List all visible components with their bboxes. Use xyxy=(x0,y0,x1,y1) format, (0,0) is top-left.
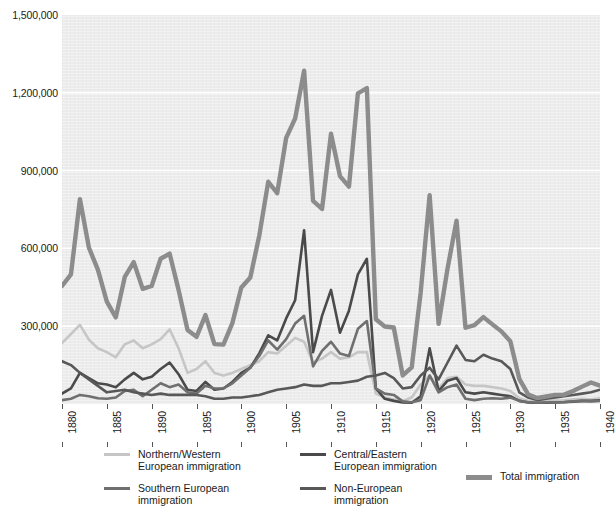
x-tick-mark-lower xyxy=(286,442,287,447)
x-tick-mark xyxy=(600,404,601,409)
x-tick-label: 1890 xyxy=(156,411,168,434)
x-tick-mark-lower xyxy=(152,442,153,447)
legend-label: Central/Eastern European immigration xyxy=(334,448,437,472)
y-tick-label: 900,000 xyxy=(21,165,58,177)
legend-label: Northern/Western European immigration xyxy=(138,448,241,472)
x-tick-label: 1910 xyxy=(335,411,347,434)
x-tick-mark xyxy=(331,404,332,409)
x-tick-mark-lower xyxy=(376,442,377,447)
legend-swatch-icon xyxy=(104,453,130,456)
x-tick-mark-lower xyxy=(600,442,601,447)
x-tick-mark-lower xyxy=(241,442,242,447)
y-axis-labels: 300,000600,000900,0001,200,0001,500,000 xyxy=(0,0,58,404)
y-tick-label: 1,500,000 xyxy=(12,9,58,21)
legend-label: Non-European immigration xyxy=(334,482,402,506)
x-tick-label: 1895 xyxy=(201,411,213,434)
x-tick-mark-lower xyxy=(555,442,556,447)
legend-item-central-eastern[interactable]: Central/Eastern European immigration xyxy=(300,448,437,472)
x-axis-labels: 1880188518901895190019051910191519201925… xyxy=(62,404,600,450)
x-tick-mark xyxy=(241,404,242,409)
x-tick-mark-lower xyxy=(62,442,63,447)
x-tick-label: 1885 xyxy=(111,411,123,434)
legend-swatch-icon xyxy=(104,487,130,490)
y-tick-label: 600,000 xyxy=(21,242,58,254)
x-tick-label: 1880 xyxy=(66,411,78,434)
legend-swatch-icon xyxy=(300,453,326,456)
x-tick-mark-lower xyxy=(466,442,467,447)
x-tick-mark xyxy=(466,404,467,409)
x-tick-label: 1915 xyxy=(380,411,392,434)
x-tick-label: 1930 xyxy=(514,411,526,434)
x-tick-mark-lower xyxy=(107,442,108,447)
x-tick-mark xyxy=(286,404,287,409)
x-tick-mark xyxy=(555,404,556,409)
legend-item-total[interactable]: Total immigration xyxy=(466,470,579,482)
x-tick-mark xyxy=(510,404,511,409)
legend-item-non-european[interactable]: Non-European immigration xyxy=(300,482,402,506)
series-canvas xyxy=(62,15,600,404)
x-tick-mark xyxy=(197,404,198,409)
x-tick-mark xyxy=(152,404,153,409)
x-tick-mark xyxy=(376,404,377,409)
x-tick-label: 1920 xyxy=(425,411,437,434)
y-tick-label: 1,200,000 xyxy=(12,87,58,99)
legend-label: Southern European immigration xyxy=(138,482,229,506)
legend-item-southern[interactable]: Southern European immigration xyxy=(104,482,229,506)
legend-swatch-icon xyxy=(466,475,492,480)
x-tick-label: 1940 xyxy=(604,411,616,434)
chart-legend: Northern/Western European immigrationCen… xyxy=(0,448,612,514)
legend-label: Total immigration xyxy=(500,470,579,482)
plot-area xyxy=(62,15,600,404)
legend-swatch-icon xyxy=(300,487,326,490)
x-tick-label: 1905 xyxy=(290,411,302,434)
x-tick-mark-lower xyxy=(331,442,332,447)
x-tick-label: 1900 xyxy=(245,411,257,434)
x-tick-label: 1925 xyxy=(470,411,482,434)
x-tick-mark-lower xyxy=(421,442,422,447)
x-tick-mark xyxy=(107,404,108,409)
x-tick-mark-lower xyxy=(197,442,198,447)
y-tick-label: 300,000 xyxy=(21,320,58,332)
x-tick-mark-lower xyxy=(510,442,511,447)
legend-item-northern-western[interactable]: Northern/Western European immigration xyxy=(104,448,241,472)
x-tick-mark xyxy=(421,404,422,409)
x-tick-label: 1935 xyxy=(559,411,571,434)
x-tick-mark xyxy=(62,404,63,409)
